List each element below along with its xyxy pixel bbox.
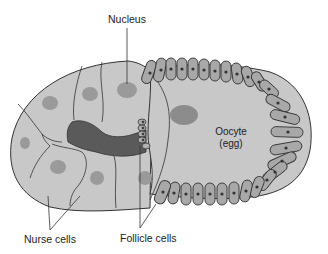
nurse-nucleus — [117, 82, 137, 98]
nurse-nucleus — [42, 96, 58, 110]
nurse-cell-cluster — [11, 61, 152, 211]
oocyte-nucleus — [170, 105, 198, 125]
label-oocyte: Oocyte (egg) — [206, 126, 256, 150]
nurse-nucleus — [82, 87, 98, 101]
nurse-nucleus — [90, 171, 104, 185]
label-follicle-cells: Follicle cells — [120, 233, 177, 244]
nurse-nucleus — [50, 160, 66, 174]
label-oocyte-line2: (egg) — [206, 138, 256, 150]
egg-chamber-diagram — [0, 0, 328, 254]
label-nucleus: Nucleus — [108, 14, 146, 25]
label-oocyte-line1: Oocyte — [206, 126, 256, 138]
label-nurse-cells: Nurse cells — [24, 234, 76, 245]
nurse-nucleus — [20, 137, 30, 149]
